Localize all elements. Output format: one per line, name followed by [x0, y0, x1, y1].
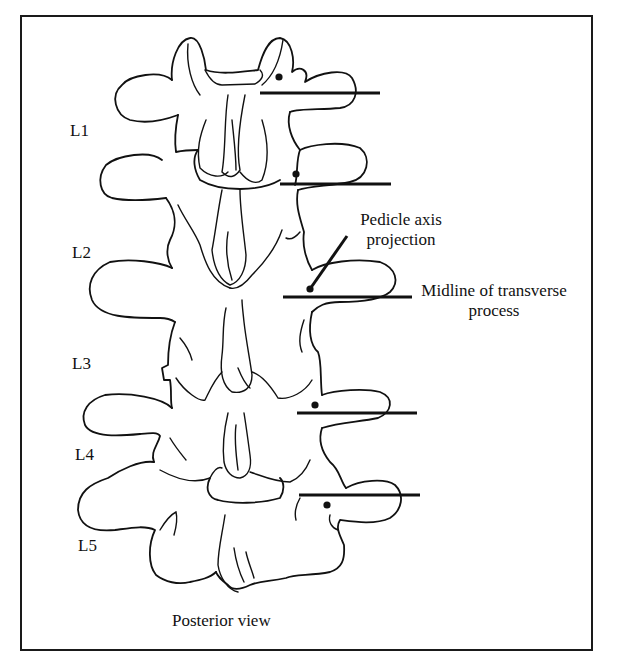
vertebra-l1: [115, 38, 355, 189]
vertebra-l5: [78, 462, 401, 592]
label-l5: L5: [78, 537, 97, 554]
transverse-midline-line1: Midline of transverse: [408, 281, 580, 301]
pedicle-dot-l4: [311, 401, 318, 408]
vertebra-l3: [90, 260, 396, 408]
pedicle-axis-line1: Pedicle axis: [340, 210, 462, 230]
lumbar-spine-drawing: [0, 0, 617, 666]
label-l4: L4: [75, 446, 94, 463]
label-l1: L1: [70, 122, 89, 139]
pedicle-axis-callout: Pedicle axis projection: [340, 210, 462, 250]
pedicle-dot-l2: [292, 170, 299, 177]
pedicle-axis-line2: projection: [340, 230, 462, 250]
view-caption: Posterior view: [172, 612, 271, 629]
pedicle-dot-l5: [323, 501, 330, 508]
label-l3: L3: [72, 355, 91, 372]
vertebra-l4: [84, 390, 390, 503]
label-l2: L2: [72, 244, 91, 261]
transverse-midline-lines: [260, 93, 420, 495]
pedicle-dot-l1: [275, 73, 282, 80]
transverse-midline-callout: Midline of transverse process: [408, 281, 580, 321]
pedicle-markers: [275, 73, 330, 508]
transverse-midline-line2: process: [408, 301, 580, 321]
